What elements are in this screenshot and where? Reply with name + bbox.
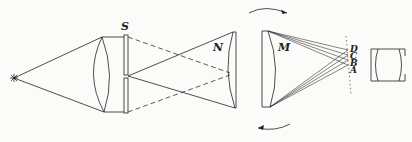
ray-lower [14, 78, 104, 112]
label-s: S [121, 20, 129, 33]
mirror-m [262, 31, 276, 107]
slit-plate [124, 35, 128, 113]
label-n: N [212, 41, 224, 54]
label-m: M [277, 41, 291, 54]
label-a: A [349, 65, 357, 75]
optics-diagram: S N M D C B A [0, 0, 412, 142]
ray-slit-n-bottom [128, 76, 235, 108]
rotation-arrow-bottom-icon [258, 124, 290, 130]
lens-n [228, 32, 236, 108]
ray-upper [14, 37, 102, 78]
ray-slit-n-top [128, 32, 233, 76]
eyepiece-icon [371, 49, 405, 81]
condenser-lens [93, 37, 109, 112]
rotation-arrow-top-icon [249, 9, 287, 15]
